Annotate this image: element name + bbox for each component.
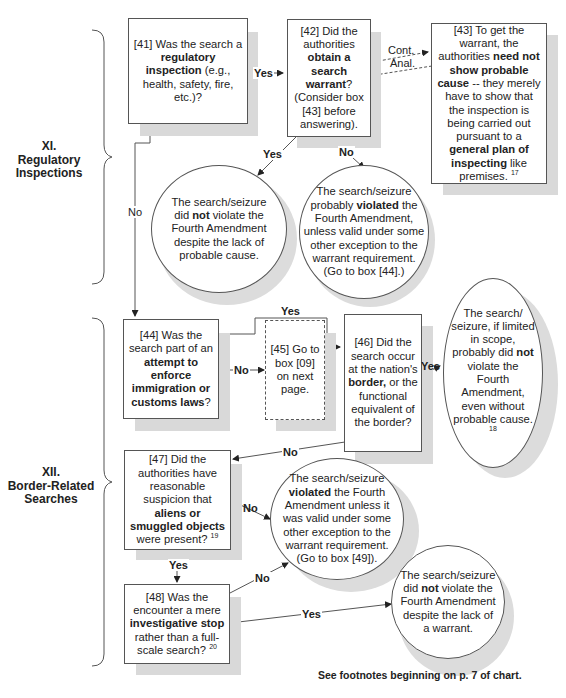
node-43[interactable]: [43] To get the warrant, the authorities… bbox=[431, 23, 547, 184]
section-xii-label: XII. Border-Related Searches bbox=[6, 466, 96, 507]
edge-label-no: No bbox=[233, 364, 250, 376]
section-xi-label: XI. Regulatory Inspections bbox=[6, 140, 92, 181]
footnote-reference: See footnotes beginning on p. 7 of chart… bbox=[318, 669, 522, 681]
node-41-text: [41] Was the search a regulatory inspect… bbox=[132, 38, 244, 104]
result-text: The search/seizure did not violate the F… bbox=[164, 196, 274, 262]
result-border-search-not-violated[interactable]: The search/ seizure, if limited in scope… bbox=[443, 278, 543, 468]
edge-label-yes: Yes bbox=[280, 305, 301, 317]
node-45[interactable]: [45] Go to box [09] on next page. bbox=[265, 320, 325, 420]
node-43-text: [43] To get the warrant, the authorities… bbox=[436, 24, 542, 184]
node-46-text: [46] Did the search occur at the nation'… bbox=[348, 336, 418, 429]
result-not-violated-warrant[interactable]: The search/seizure did not violate the F… bbox=[391, 545, 505, 659]
result-text: The search/seizure probably violated the… bbox=[303, 185, 425, 278]
node-48-text: [48] Was the encounter a mere investigat… bbox=[128, 591, 226, 657]
result-not-violated-probable-cause[interactable]: The search/seizure did not violate the F… bbox=[151, 165, 287, 293]
node-46[interactable]: [46] Did the search occur at the nation'… bbox=[344, 314, 422, 452]
node-44-text: [44] Was the search part of an attempt t… bbox=[127, 329, 215, 409]
edge-label-no: No bbox=[127, 206, 143, 218]
node-41[interactable]: [41] Was the search a regulatory inspect… bbox=[128, 18, 248, 124]
result-probably-violated[interactable]: The search/seizure probably violated the… bbox=[299, 165, 429, 299]
node-48[interactable]: [48] Was the encounter a mere investigat… bbox=[124, 584, 230, 664]
edge-label-cont: Cont. bbox=[387, 44, 415, 56]
result-text: The search/ seizure, if limited in scope… bbox=[450, 307, 536, 440]
node-42[interactable]: [42] Did the authorities obtain a search… bbox=[287, 19, 371, 137]
edge-label-anal: Anal. bbox=[389, 57, 416, 69]
edge-label-no: No bbox=[242, 502, 259, 514]
result-text: The search/seizure violated the Fourth A… bbox=[277, 472, 397, 565]
node-44[interactable]: [44] Was the search part of an attempt t… bbox=[123, 319, 219, 419]
node-47[interactable]: [47] Did the authorities have reasonable… bbox=[124, 450, 231, 550]
edge-label-yes: Yes bbox=[301, 608, 322, 620]
node-47-text: [47] Did the authorities have reasonable… bbox=[128, 453, 227, 546]
section-numeral: XI. bbox=[6, 140, 92, 154]
section-title: Border-Related Searches bbox=[6, 480, 96, 507]
result-violated[interactable]: The search/seizure violated the Fourth A… bbox=[270, 458, 404, 580]
result-text: The search/seizure did not violate the F… bbox=[400, 569, 496, 635]
section-title: Regulatory Inspections bbox=[6, 154, 92, 181]
edge-label-no: No bbox=[254, 572, 271, 584]
node-45-text: [45] Go to box [09] on next page. bbox=[270, 343, 320, 396]
edge-label-no: No bbox=[282, 446, 299, 458]
edge-label-yes: Yes bbox=[168, 559, 189, 571]
edge-label-yes: Yes bbox=[420, 360, 441, 372]
edge-label-no: No bbox=[338, 146, 355, 158]
edge-label-yes: Yes bbox=[253, 67, 274, 79]
edge-label-yes: Yes bbox=[262, 148, 283, 160]
section-numeral: XII. bbox=[6, 466, 96, 480]
node-42-text: [42] Did the authorities obtain a search… bbox=[291, 25, 367, 131]
